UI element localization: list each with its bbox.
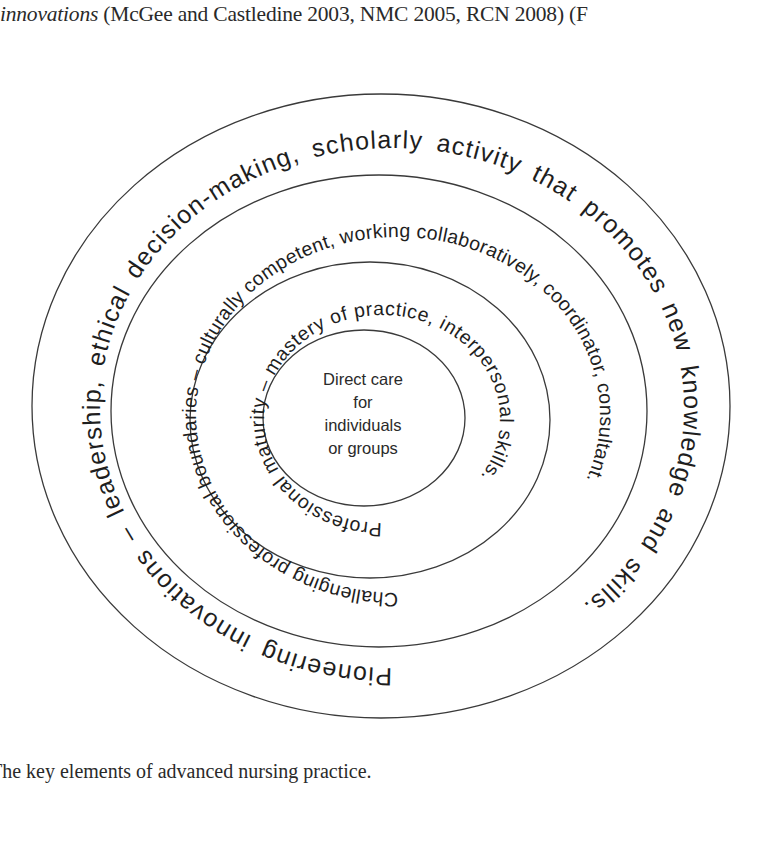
core-line: or groups	[268, 437, 458, 460]
figure-caption: The key elements of advanced nursing pra…	[0, 760, 372, 783]
core-label: Direct care for individuals or groups	[268, 368, 458, 460]
core-line: Direct care	[268, 368, 458, 391]
core-line: for	[268, 391, 458, 414]
core-line: individuals	[268, 414, 458, 437]
